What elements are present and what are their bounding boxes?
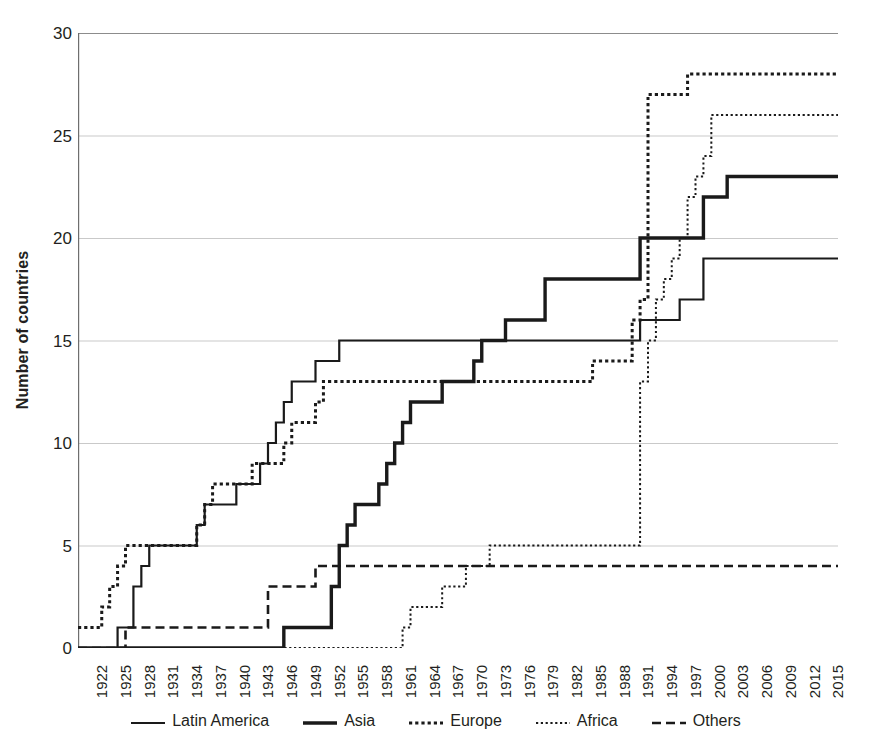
x-axis-tick-label-text: 1958 <box>379 665 394 698</box>
x-axis-tick-label: 1940 <box>235 652 253 710</box>
x-axis-tick-label: 1922 <box>93 652 111 710</box>
x-axis-tick-label-text: 1940 <box>237 665 252 698</box>
x-axis-tick-label-text: 2006 <box>759 665 774 698</box>
plot-area <box>78 33 838 648</box>
x-axis-tick-label-text: 1928 <box>142 665 157 698</box>
x-axis-tick-label-text: 1967 <box>451 665 466 698</box>
x-axis-tick-label: 1970 <box>473 652 491 710</box>
x-axis-tick-label-text: 2009 <box>783 665 798 698</box>
x-axis-tick-label-text: 2000 <box>712 665 727 698</box>
x-axis-tick-label: 1991 <box>639 652 657 710</box>
x-axis-tick-label: 2015 <box>829 652 847 710</box>
x-axis-tick-label-text: 1922 <box>94 665 109 698</box>
y-axis-tick-label: 10 <box>28 435 72 452</box>
x-axis-tick-label: 1985 <box>592 652 610 710</box>
series-line-latin-america <box>78 259 838 649</box>
x-axis-tick-label-text: 2015 <box>831 665 846 698</box>
x-axis-tick-label: 1982 <box>568 652 586 710</box>
y-axis-tick-label: 25 <box>28 127 72 144</box>
legend-label: Africa <box>577 713 618 729</box>
x-axis-tick-label: 1961 <box>402 652 420 710</box>
series-line-asia <box>78 177 838 649</box>
x-axis-tick-label-text: 1925 <box>118 665 133 698</box>
x-axis-tick-label-text: 1946 <box>284 665 299 698</box>
y-axis-tick-label: 30 <box>28 25 72 42</box>
x-axis-tick-label: 1955 <box>354 652 372 710</box>
x-axis-tick-label: 2009 <box>782 652 800 710</box>
x-axis-tick-label: 1943 <box>259 652 277 710</box>
x-axis-tick-labels: 1922192519281931193419371940194319461949… <box>78 652 838 712</box>
x-axis-tick-label-text: 1976 <box>522 665 537 698</box>
series-line-others <box>78 566 838 648</box>
y-axis-tick-label: 15 <box>28 332 72 349</box>
x-axis-tick-label-text: 1982 <box>569 665 584 698</box>
x-axis-tick-label: 1964 <box>425 652 443 710</box>
x-axis-tick-label: 1952 <box>330 652 348 710</box>
x-axis-tick-label-text: 1991 <box>641 665 656 698</box>
legend-swatch <box>131 715 165 727</box>
x-axis-tick-label-text: 1973 <box>498 665 513 698</box>
x-axis-tick-label-text: 2012 <box>807 665 822 698</box>
x-axis-tick-label: 1946 <box>283 652 301 710</box>
x-axis-tick-label-text: 1994 <box>664 665 679 698</box>
chart-legend: Latin AmericaAsiaEuropeAfricaOthers <box>0 706 872 736</box>
legend-item-latin-america[interactable]: Latin America <box>131 713 269 729</box>
y-axis-tick-label: 20 <box>28 230 72 247</box>
chart-figure: Number of countries 051015202530 1922192… <box>0 0 872 749</box>
x-axis-tick-label-text: 1934 <box>189 665 204 698</box>
legend-swatch <box>652 715 686 727</box>
x-axis-tick-label: 1958 <box>378 652 396 710</box>
y-axis-tick-label: 0 <box>28 640 72 657</box>
x-axis-tick-label: 1949 <box>307 652 325 710</box>
legend-swatch <box>303 715 337 727</box>
legend-label: Others <box>693 713 741 729</box>
legend-label: Europe <box>450 713 502 729</box>
x-axis-tick-label: 1934 <box>188 652 206 710</box>
x-axis-tick-label-text: 2003 <box>736 665 751 698</box>
x-axis-tick-label-text: 1949 <box>308 665 323 698</box>
x-axis-tick-label-text: 1961 <box>403 665 418 698</box>
x-axis-tick-label: 1937 <box>212 652 230 710</box>
x-axis-tick-label-text: 1955 <box>356 665 371 698</box>
legend-label: Asia <box>344 713 375 729</box>
x-axis-tick-label-text: 1937 <box>213 665 228 698</box>
x-axis-tick-label: 1988 <box>615 652 633 710</box>
x-axis-tick-label-text: 1931 <box>166 665 181 698</box>
legend-swatch <box>409 715 443 727</box>
y-axis-tick-labels: 051015202530 <box>20 33 72 648</box>
legend-label: Latin America <box>172 713 269 729</box>
legend-item-africa[interactable]: Africa <box>536 713 618 729</box>
x-axis-tick-label-text: 1964 <box>427 665 442 698</box>
x-axis-tick-label-text: 1985 <box>593 665 608 698</box>
x-axis-tick-label: 2012 <box>805 652 823 710</box>
legend-item-others[interactable]: Others <box>652 713 741 729</box>
legend-item-asia[interactable]: Asia <box>303 713 375 729</box>
x-axis-tick-label: 1967 <box>449 652 467 710</box>
y-axis-tick-label: 5 <box>28 537 72 554</box>
x-axis-tick-label-text: 1988 <box>617 665 632 698</box>
x-axis-tick-label-text: 1997 <box>688 665 703 698</box>
x-axis-tick-label: 1979 <box>544 652 562 710</box>
chart-svg <box>78 33 838 648</box>
x-axis-tick-label: 2006 <box>758 652 776 710</box>
x-axis-tick-label: 2000 <box>710 652 728 710</box>
legend-swatch <box>536 715 570 727</box>
x-axis-tick-label: 1925 <box>117 652 135 710</box>
x-axis-tick-label: 2003 <box>734 652 752 710</box>
x-axis-tick-label-text: 1943 <box>261 665 276 698</box>
x-axis-tick-label-text: 1952 <box>332 665 347 698</box>
x-axis-tick-label: 1976 <box>520 652 538 710</box>
x-axis-tick-label: 1973 <box>497 652 515 710</box>
x-axis-tick-label: 1931 <box>164 652 182 710</box>
x-axis-tick-label: 1994 <box>663 652 681 710</box>
x-axis-tick-label: 1997 <box>687 652 705 710</box>
legend-item-europe[interactable]: Europe <box>409 713 502 729</box>
x-axis-tick-label-text: 1970 <box>474 665 489 698</box>
x-axis-tick-label-text: 1979 <box>546 665 561 698</box>
x-axis-tick-label: 1928 <box>140 652 158 710</box>
